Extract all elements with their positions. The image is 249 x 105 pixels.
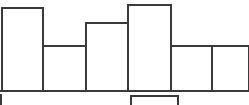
bar-5 xyxy=(171,46,212,91)
below-axis-box xyxy=(131,96,178,105)
bar-2 xyxy=(43,46,86,91)
bar-1 xyxy=(2,8,43,91)
histogram-chart xyxy=(0,0,249,105)
histogram-svg xyxy=(0,0,249,105)
bar-4 xyxy=(128,5,171,91)
plot-area xyxy=(0,0,249,105)
bar-6 xyxy=(212,46,249,91)
bar-3 xyxy=(86,23,128,91)
